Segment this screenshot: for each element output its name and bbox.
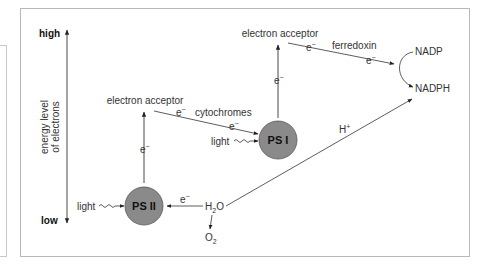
svg-text:e−: e− bbox=[176, 106, 186, 118]
ps2-node: PS II light e− bbox=[77, 112, 163, 225]
axis-high-label: high bbox=[39, 28, 60, 39]
oxygen-label: O2 bbox=[205, 232, 217, 245]
water-label: H2O bbox=[205, 201, 224, 214]
ps2-label: PS II bbox=[132, 200, 156, 212]
acceptor1-label: electron acceptor bbox=[107, 95, 184, 106]
nadp-label: NADP bbox=[415, 46, 443, 57]
acceptor1-chain: electron acceptor e− cytochromes e− bbox=[107, 95, 258, 134]
ps1-node: PS I light e− bbox=[211, 45, 297, 159]
acceptor2-chain: electron acceptor e− ferredoxin e− bbox=[242, 28, 394, 66]
electron-label-ps2-up: e− bbox=[140, 143, 150, 155]
nadp-reduction: NADP NADPH bbox=[400, 46, 451, 94]
acceptor2-label: electron acceptor bbox=[242, 28, 319, 39]
ps1-light-label: light bbox=[211, 136, 230, 147]
svg-text:e−: e− bbox=[140, 143, 150, 155]
axis-low-label: low bbox=[41, 215, 58, 226]
svg-text:e−: e− bbox=[229, 120, 239, 132]
nadph-label: NADPH bbox=[415, 83, 450, 94]
axis-title-line2: of electrons bbox=[50, 101, 61, 153]
svg-text:e−: e− bbox=[180, 193, 190, 205]
axis-title-line1: energy level bbox=[39, 100, 50, 154]
svg-text:e−: e− bbox=[306, 41, 316, 53]
z-scheme-diagram: high low energy level of electrons PS II… bbox=[0, 0, 485, 272]
energy-axis: high low energy level of electrons bbox=[39, 28, 67, 226]
svg-text:e−: e− bbox=[366, 54, 376, 66]
ps1-label: PS I bbox=[268, 134, 289, 146]
svg-text:e−: e− bbox=[274, 74, 284, 86]
ferredoxin-label: ferredoxin bbox=[332, 40, 376, 51]
proton-label: H+ bbox=[339, 123, 350, 135]
water-splitting: e− H2O O2 H+ bbox=[167, 99, 412, 245]
cytochromes-label: cytochromes bbox=[195, 107, 252, 118]
ps2-light-label: light bbox=[77, 201, 96, 212]
